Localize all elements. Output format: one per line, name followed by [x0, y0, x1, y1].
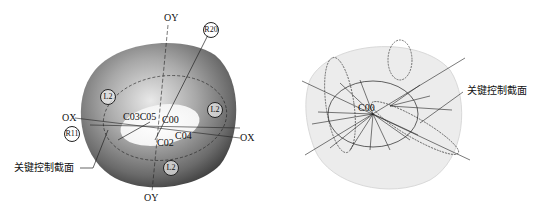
- point-label-c00: C00: [162, 115, 179, 125]
- r20-circled-label: R20: [203, 22, 219, 38]
- l2-circled-label-left: L2: [100, 89, 116, 105]
- oy-axis-bottom-label: OY: [144, 193, 158, 203]
- ox-axis-right-label: OX: [240, 133, 254, 143]
- point-label-c00-right: C00: [358, 103, 375, 113]
- r11-circled-label: R11: [64, 126, 80, 142]
- point-label-c04: C04: [175, 131, 192, 141]
- left-figure-torus-surface: OY OY OX OX R20 R11 L2 L2 L2 C03C05 C00 …: [0, 0, 270, 214]
- l2-circled-label-right: L2: [207, 102, 223, 118]
- key-control-section-callout-left: 关键控制截面: [14, 163, 74, 173]
- l2-circled-label-bottom: L2: [163, 160, 179, 176]
- torus-surface-drawing: [0, 0, 270, 214]
- ox-axis-left-label: OX: [62, 113, 76, 123]
- point-label-c02: C02: [157, 138, 174, 148]
- right-figure-wireframe: C00 关键控制截面: [270, 0, 541, 214]
- oy-axis-top-label: OY: [164, 13, 178, 23]
- wireframe-drawing: [270, 0, 541, 214]
- point-label-c03c05: C03C05: [123, 112, 156, 122]
- key-control-section-callout-right: 关键控制截面: [467, 86, 527, 96]
